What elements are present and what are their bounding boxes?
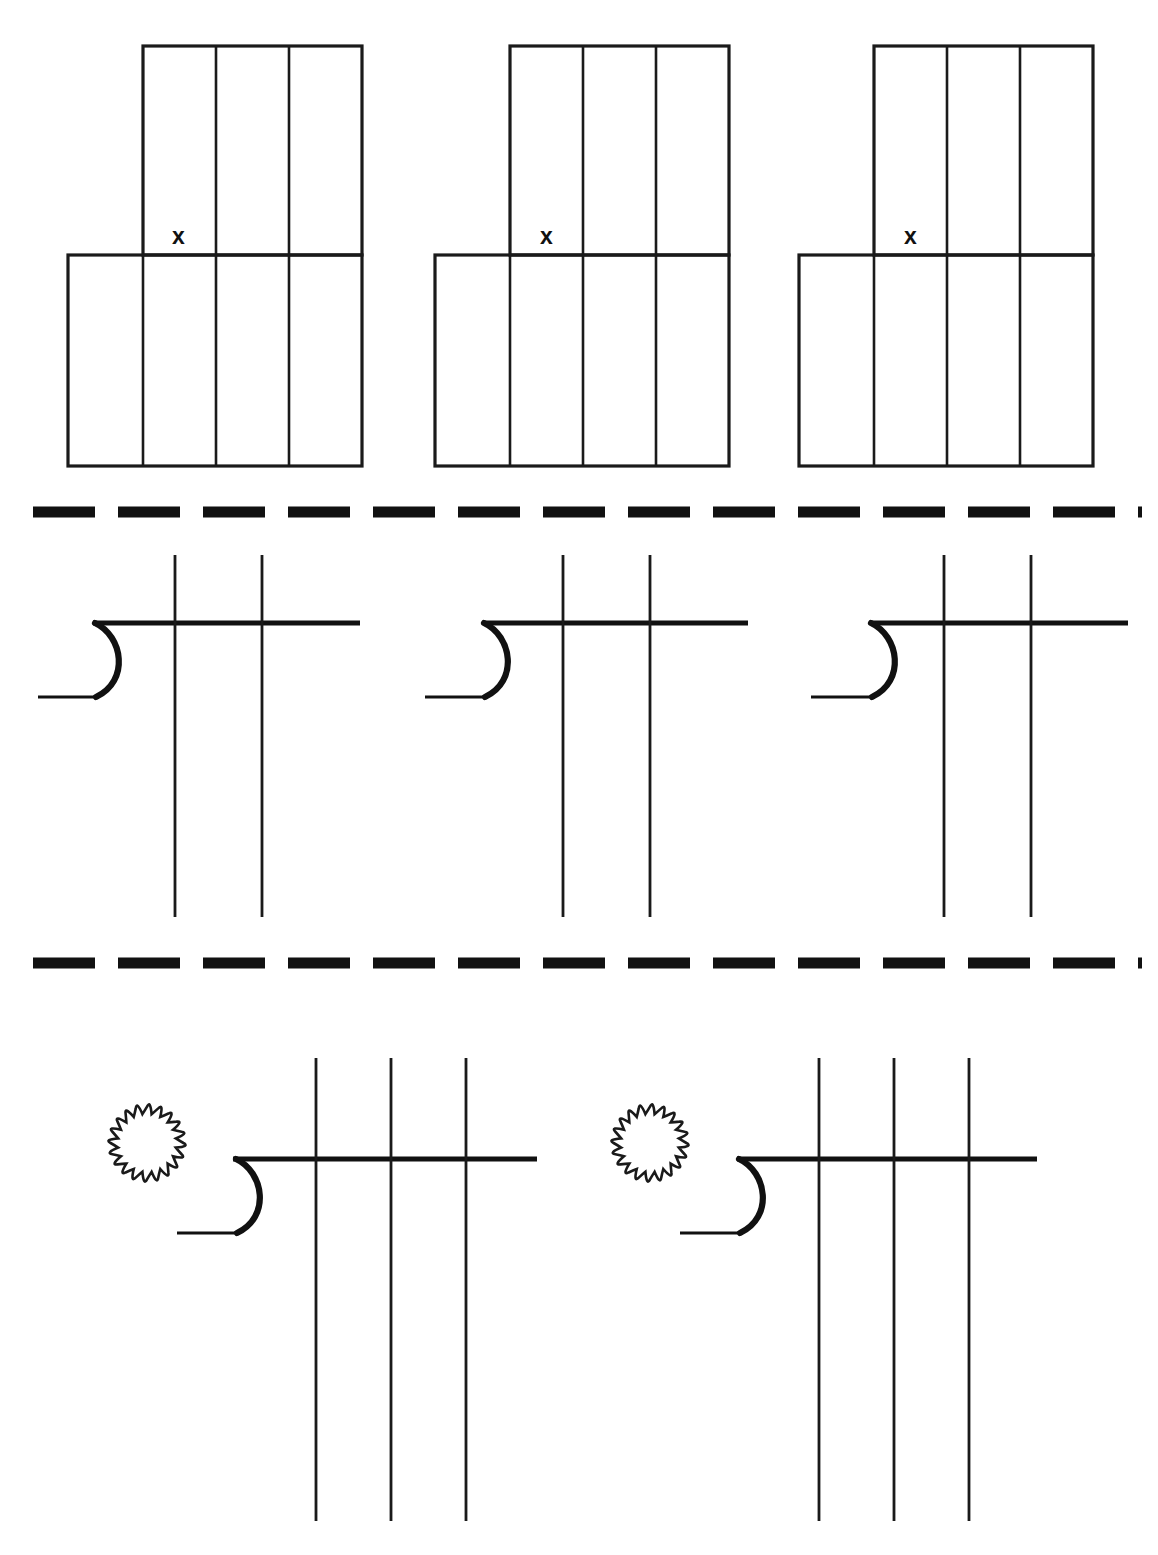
scallop-circle-icon-8	[611, 1104, 688, 1181]
scallop-circle-icon-7	[108, 1104, 185, 1181]
grid-2-x-marker: x	[540, 225, 553, 248]
grid-3-x-marker: x	[904, 225, 917, 248]
worksheet-page: x x x	[0, 0, 1158, 1555]
grid-1-x-marker: x	[172, 225, 185, 248]
